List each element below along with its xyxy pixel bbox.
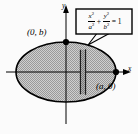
equation-plus: + [95, 17, 102, 26]
equation-term-y: y2 b2 [102, 12, 110, 31]
right-vertex-dot [113, 69, 119, 75]
x-axis-label: x [128, 65, 131, 73]
top-vertex-label: (0, b) [27, 28, 47, 37]
equation-den-b: b2 [102, 22, 110, 31]
equation-den-a: a2 [87, 22, 95, 31]
right-vertex-label: (a, 0) [96, 82, 116, 91]
y-axis-label: y [62, 2, 65, 10]
ellipse-figure: x2 a2 + y2 b2 = 1 (0, b) (a, 0) x y [0, 0, 138, 134]
top-vertex-dot [63, 39, 69, 45]
equation-rhs: = 1 [110, 17, 121, 26]
equation-term-x: x2 a2 [87, 12, 95, 31]
ellipse-equation: x2 a2 + y2 b2 = 1 [79, 11, 130, 32]
